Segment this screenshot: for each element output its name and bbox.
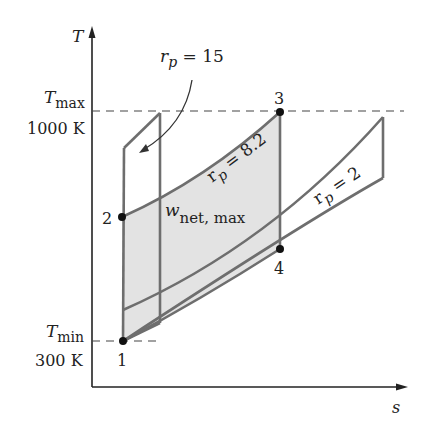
x-axis-arrow-icon <box>396 384 408 391</box>
tmin-label: Tmin <box>46 321 84 345</box>
point-1-label: 1 <box>117 351 127 370</box>
point-1-marker <box>119 337 127 345</box>
point-2-label: 2 <box>102 209 112 228</box>
rp15-annotation-arrow <box>143 80 192 150</box>
y-axis-arrow-icon <box>89 26 96 38</box>
x-axis-label: s <box>392 398 400 417</box>
point-4-label: 4 <box>274 259 284 278</box>
point-3-marker <box>276 108 284 116</box>
point-2-marker <box>118 213 126 221</box>
tmax-value: 1000 K <box>27 119 86 138</box>
ts-diagram: T s Tmax 1000 K Tmin 300 K 1 2 3 4 rp = … <box>0 0 432 423</box>
y-axis-label: T <box>72 26 85 46</box>
rp15-label: rp = 15 <box>160 46 224 70</box>
tmin-value: 300 K <box>35 351 84 370</box>
point-4-marker <box>276 245 284 253</box>
point-3-label: 3 <box>274 89 284 108</box>
tmax-label: Tmax <box>44 87 85 111</box>
arrowhead-icon <box>139 144 149 153</box>
